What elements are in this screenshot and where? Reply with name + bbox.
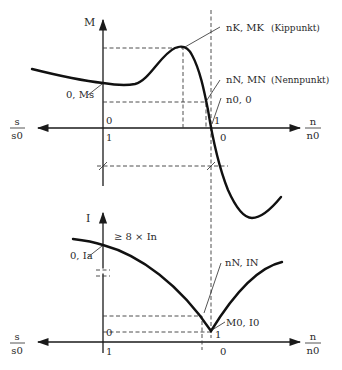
kipp-guide-lines xyxy=(103,48,183,128)
svg-text:s0: s0 xyxy=(11,130,23,141)
torque-current-speed-diagram: M 0, Ms nK, MK (Kippunkt) nN, MN (Nennpu… xyxy=(0,0,342,370)
svg-text:n0: n0 xyxy=(307,345,320,356)
torque-curve xyxy=(32,47,281,218)
nenn-point-label: nN, MN xyxy=(226,74,266,85)
start-torque-label: 0, Ms xyxy=(66,89,94,100)
nenn-leader xyxy=(207,80,220,100)
svg-text:s0: s0 xyxy=(11,345,23,356)
nenn-current-label: nN, IN xyxy=(225,257,259,268)
slip-one-tick-bottom: 1 xyxy=(106,346,112,357)
start-current-note: ≥ 8 × In xyxy=(114,231,158,242)
speed-one-tick: 1 xyxy=(214,115,220,126)
nenn-guide-lines xyxy=(103,102,206,128)
nenn-current-guide-lines xyxy=(103,316,202,350)
slip-zero-tick: 0 xyxy=(106,115,112,126)
slip-one-tick: 1 xyxy=(106,132,112,143)
kipp-point-note: (Kippunkt) xyxy=(271,23,320,33)
current-diagram: I ≥ 8 × In 0, Ia nN, IN M0, I0 0 1 1 0 s… xyxy=(10,212,321,357)
svg-text:s: s xyxy=(14,331,19,342)
speed-zero-tick-bottom: 0 xyxy=(220,346,226,357)
svg-text:n: n xyxy=(310,116,317,127)
svg-text:n: n xyxy=(310,331,317,342)
torque-diagram: M 0, Ms nK, MK (Kippunkt) nN, MN (Nennpu… xyxy=(10,10,329,338)
kipp-leader xyxy=(185,27,220,47)
speed-zero-tick: 0 xyxy=(220,132,226,143)
torque-axis-label: M xyxy=(84,16,95,29)
speed-axis-label-bottom: n n0 xyxy=(305,331,321,356)
current-axis-label: I xyxy=(86,212,90,225)
nenn-current-leader xyxy=(204,263,221,313)
slip-zero-tick-bottom: 0 xyxy=(106,327,112,338)
start-current-label: 0, Ia xyxy=(70,250,93,261)
slip-axis-label-bottom: s s0 xyxy=(10,331,25,356)
sync-point-label: n0, 0 xyxy=(226,94,252,105)
idle-current-label: M0, I0 xyxy=(226,317,259,328)
kipp-point-label: nK, MK xyxy=(226,22,265,33)
slip-axis-label: s s0 xyxy=(10,116,25,141)
speed-axis-label: n n0 xyxy=(305,116,321,141)
svg-text:n0: n0 xyxy=(307,130,320,141)
nenn-point-note: (Nennpunkt) xyxy=(271,75,329,85)
speed-one-tick-bottom: 1 xyxy=(215,329,221,340)
svg-text:s: s xyxy=(14,116,19,127)
